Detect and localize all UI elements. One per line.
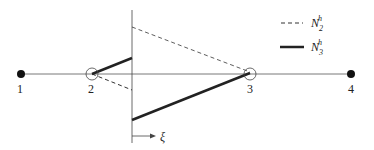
xi-axis-label: ξ bbox=[160, 130, 166, 144]
node-4-filled bbox=[347, 70, 355, 78]
legend-n3-label: N3h bbox=[310, 38, 323, 57]
node-4-label: 4 bbox=[348, 82, 354, 96]
n3-solid-segment-upper bbox=[92, 58, 132, 74]
n2-dashed-segment-upper bbox=[132, 27, 250, 72]
node-1-filled bbox=[17, 70, 25, 78]
xi-arrow-head-icon bbox=[150, 134, 156, 139]
n3-solid-segment-lower bbox=[132, 73, 250, 120]
legend-n2-label: N2h bbox=[310, 14, 323, 33]
shape-function-diagram: 1 2 3 4 ξ N2h N3h bbox=[0, 0, 374, 150]
node-3-label: 3 bbox=[247, 82, 253, 96]
node-1-label: 1 bbox=[17, 82, 23, 96]
n2-dashed-segment-lower bbox=[92, 74, 132, 90]
node-2-label: 2 bbox=[88, 82, 94, 96]
